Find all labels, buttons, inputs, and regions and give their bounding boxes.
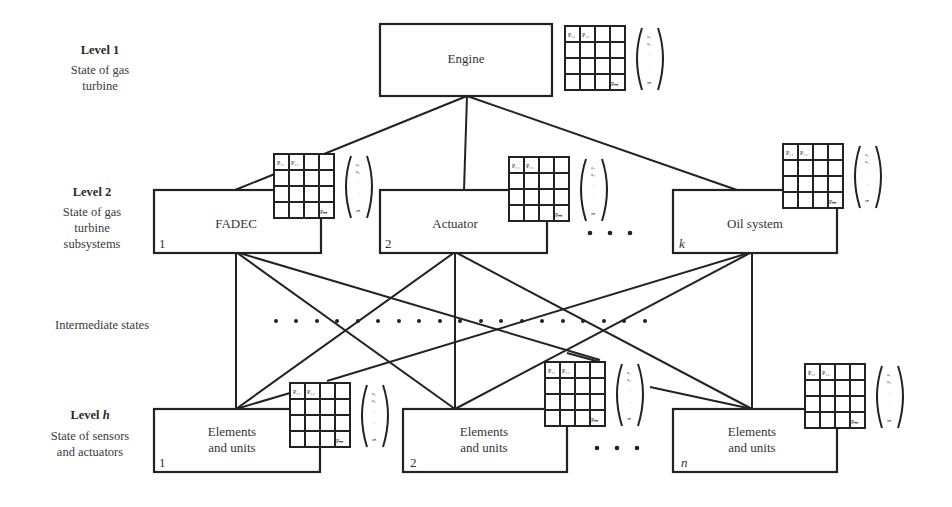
edge-vector-elemn-stub xyxy=(650,387,752,409)
level-1-desc-line2: turbine xyxy=(82,79,118,93)
elements-1-label-line2: and units xyxy=(208,440,255,455)
elements-n-matrix xyxy=(805,364,903,428)
levelh-ellipsis xyxy=(595,446,640,451)
level-h-desc-line2: and actuators xyxy=(57,445,123,459)
level-2-label: Level 2 State of gas turbine subsystems xyxy=(63,185,121,251)
elements-n-label-line2: and units xyxy=(728,440,775,455)
edge-oil-elem1-matrix xyxy=(327,252,752,381)
oil-system-label: Oil system xyxy=(727,216,783,231)
level-2-desc-line1: State of gas xyxy=(63,205,121,219)
elements-2-matrix xyxy=(545,362,643,426)
hierarchy-diagram: Level 1 State of gas turbine Level 2 Sta… xyxy=(0,0,952,507)
elements-2-label-line1: Elements xyxy=(460,424,508,439)
fadec-matrix xyxy=(274,154,372,218)
level-h-label: Level h State of sensors and actuators xyxy=(51,408,130,459)
level2-ellipsis xyxy=(588,231,633,236)
elements-2-label-line2: and units xyxy=(460,440,507,455)
level-2-desc-line3: subsystems xyxy=(64,237,121,251)
elements-1-label-line1: Elements xyxy=(208,424,256,439)
elements-1-index: 1 xyxy=(159,455,166,470)
oil-system-matrix xyxy=(783,144,881,208)
level-h-title: Level h xyxy=(70,408,109,422)
fadec-label: FADEC xyxy=(215,216,257,231)
intermediate-states-label: Intermediate states xyxy=(55,318,149,332)
engine-label: Engine xyxy=(448,51,485,66)
fadec-index: 1 xyxy=(159,236,166,251)
actuator-index: 2 xyxy=(385,236,392,251)
elements-2-index: 2 xyxy=(410,455,417,470)
engine-matrix xyxy=(565,26,663,90)
elements-n-index: n xyxy=(681,455,688,470)
level-1-title: Level 1 xyxy=(81,43,120,57)
edge-elem1-matrix-stub xyxy=(236,393,290,409)
actuator-matrix xyxy=(509,157,607,221)
node-engine[interactable]: Engine xyxy=(380,24,552,96)
node-elements-2[interactable]: Elements and units 2 xyxy=(403,409,567,472)
intermediate-label: Intermediate states xyxy=(55,318,149,332)
elements-1-matrix xyxy=(290,383,388,447)
level-1-desc-line1: State of gas xyxy=(71,63,129,77)
elements-n-label-line1: Elements xyxy=(728,424,776,439)
oil-system-index: k xyxy=(679,236,685,251)
level-1-label: Level 1 State of gas turbine xyxy=(71,43,129,93)
edge-fadec-elem2-matrix xyxy=(236,252,600,360)
edge-engine-actuator xyxy=(464,96,467,190)
edge-engine-oil xyxy=(467,96,737,190)
level-h-desc-line1: State of sensors xyxy=(51,429,130,443)
level-2-desc-line2: turbine xyxy=(74,221,110,235)
level-2-title: Level 2 xyxy=(73,185,112,199)
actuator-label: Actuator xyxy=(432,216,478,231)
edge-engine-fadec xyxy=(235,96,467,190)
